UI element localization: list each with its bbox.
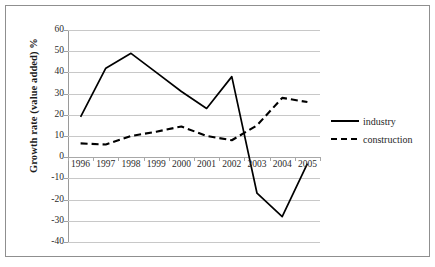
y-tick-label: -20	[38, 195, 64, 205]
y-tick-label: 60	[38, 25, 64, 35]
y-tick-label: -10	[38, 173, 64, 183]
x-tick-label: 2005	[290, 160, 324, 170]
series-line-industry	[81, 53, 308, 216]
y-tick-label: 50	[38, 46, 64, 56]
plot-area	[68, 30, 320, 242]
y-tick-label: 0	[38, 152, 64, 162]
gridline	[68, 242, 320, 243]
legend-item-industry: industry	[330, 112, 430, 130]
y-tick-label: 30	[38, 89, 64, 99]
chart-figure: Growth rate (value added) % 605040302010…	[0, 0, 435, 267]
y-tick-mark	[64, 242, 68, 243]
series-lines	[68, 30, 320, 242]
x-axis-tick-labels: 1996199719981999200020012002200320042005	[68, 160, 320, 174]
y-tick-label: 10	[38, 131, 64, 141]
chart-legend: industry construction	[330, 112, 430, 148]
legend-label-construction: construction	[363, 134, 412, 145]
legend-item-construction: construction	[330, 130, 430, 148]
series-line-construction	[81, 98, 308, 145]
legend-swatch-solid-icon	[330, 115, 360, 127]
y-tick-label: -40	[38, 237, 64, 247]
legend-label-industry: industry	[363, 116, 396, 127]
y-tick-label: -30	[38, 216, 64, 226]
legend-swatch-dashed-icon	[330, 133, 360, 145]
y-tick-label: 20	[38, 110, 64, 120]
y-tick-label: 40	[38, 67, 64, 77]
y-axis-tick-labels: 6050403020100-10-20-30-40	[36, 30, 64, 242]
